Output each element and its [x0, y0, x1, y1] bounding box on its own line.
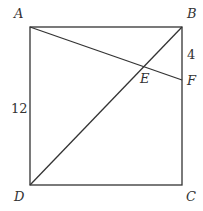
- segment-af: [30, 27, 182, 80]
- point-label-d: D: [13, 189, 25, 204]
- point-label-a: A: [13, 6, 23, 21]
- point-label-c: C: [186, 189, 196, 204]
- point-label-f: F: [186, 73, 197, 88]
- point-label-e: E: [139, 71, 150, 86]
- length-label-bf: 4: [187, 47, 195, 62]
- length-label-ad: 12: [11, 101, 28, 116]
- geometry-diagram: A B C D E F 12 4: [0, 0, 203, 211]
- point-label-b: B: [186, 6, 197, 21]
- diagonal-bd: [30, 27, 182, 185]
